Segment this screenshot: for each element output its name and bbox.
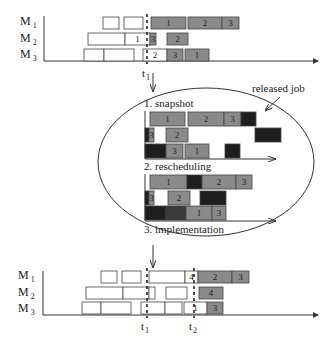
job-bar: 2 (167, 33, 188, 45)
machine-label-2: M2 (20, 31, 37, 47)
job-number: 2 (213, 272, 218, 282)
job-bar (145, 206, 166, 220)
job-bar: 1 (184, 302, 207, 314)
job-bar (104, 49, 134, 61)
job-bar: 1 (185, 49, 209, 61)
step-implementation-label: 3. implementation (144, 223, 225, 235)
machine-labels-bottom: M1 M2 M3 (18, 268, 35, 317)
job-bar (88, 33, 125, 45)
t1-label-bottom: t1 (141, 320, 149, 335)
job-bar-rect (149, 287, 155, 299)
job-bar: 1 (185, 144, 209, 158)
job-bar-rect (145, 144, 166, 158)
job-bar: 3 (150, 33, 156, 45)
job-number: 2 (175, 130, 180, 140)
job-bar: 2 (202, 175, 236, 189)
machine-label-3: M3 (20, 47, 37, 63)
job-number: 3 (151, 34, 156, 44)
job-bar: 1 (186, 206, 212, 220)
job-number: 3 (230, 114, 235, 124)
job-bar: 3 (222, 17, 239, 29)
job-bar-rect (103, 17, 119, 29)
job-bar (141, 302, 165, 314)
job-bar: 2 (188, 112, 224, 126)
job-bar (200, 191, 226, 205)
job-number: 3 (149, 130, 154, 140)
job-bar (255, 128, 281, 142)
snapshot-job-bars: 1233231 (145, 112, 281, 158)
job-bar-rect (123, 287, 149, 299)
job-number: 1 (135, 34, 140, 44)
job-bar (82, 302, 101, 314)
released-job-label: released job (252, 82, 305, 94)
job-number: 2 (153, 50, 158, 60)
job-bar: 2 (188, 17, 222, 29)
machine-label-1: M1 (20, 14, 37, 30)
bottom-job-bars: 423413 (82, 271, 249, 314)
step-snapshot-label: 1. snapshot (144, 97, 194, 109)
job-bar-rect (187, 175, 202, 189)
job-number: 1 (197, 208, 202, 218)
machine-label-2-bottom: M2 (18, 285, 35, 301)
job-bar: 2 (198, 271, 232, 283)
job-bar (101, 302, 131, 314)
job-bar-rect (145, 206, 166, 220)
job-bar (166, 206, 186, 220)
job-number: 3 (173, 50, 178, 60)
job-bar (101, 271, 117, 283)
job-bar-rect (166, 287, 187, 299)
job-bar: 3 (149, 191, 154, 205)
job-bar-rect (166, 206, 186, 220)
job-bar-rect (104, 49, 134, 61)
job-number: 1 (166, 18, 171, 28)
job-bar-rect (255, 128, 281, 142)
job-bar-rect (84, 49, 104, 61)
job-bar: 3 (236, 175, 252, 189)
top-gantt-chart: M1 M2 M3 123132231 t1 (20, 14, 318, 82)
job-bar-rect (241, 112, 256, 126)
job-bar: 3 (166, 144, 183, 158)
job-bar (241, 112, 256, 126)
top-job-bars: 123132231 (84, 17, 239, 61)
job-number: 1 (195, 50, 200, 60)
job-bar-rect (86, 287, 123, 299)
job-bar: 1 (150, 175, 187, 189)
job-number: 3 (149, 193, 154, 203)
job-bar (84, 49, 104, 61)
job-bar-rect (149, 271, 185, 283)
job-bar: 4 (199, 287, 223, 299)
step-rescheduling-label: 2. rescheduling (144, 160, 212, 172)
job-bar (187, 175, 202, 189)
job-number: 3 (217, 208, 222, 218)
job-number: 1 (166, 177, 171, 187)
job-bar-rect (225, 144, 240, 158)
job-bar: 1 (151, 17, 186, 29)
job-number: 2 (203, 18, 208, 28)
job-number: 2 (177, 193, 182, 203)
job-number: 3 (172, 146, 177, 156)
job-bar-rect (200, 191, 226, 205)
job-bar: 3 (232, 271, 249, 283)
job-number: 3 (213, 303, 218, 313)
job-bar-rect (122, 271, 141, 283)
job-bar: 2 (168, 191, 190, 205)
job-bar: 1 (150, 112, 185, 126)
job-bar-rect (141, 302, 165, 314)
job-bar: 2 (166, 128, 188, 142)
job-bar (122, 271, 141, 283)
job-number: 3 (228, 18, 233, 28)
released-job-arrow (265, 97, 280, 111)
job-bar-rect (124, 17, 143, 29)
job-bar-rect (165, 302, 182, 314)
bottom-gantt-chart: M1 M2 M3 423413 t1 t2 (18, 268, 318, 335)
job-bar (124, 17, 143, 29)
job-bar-rect (101, 271, 117, 283)
job-bar (103, 17, 119, 29)
rescheduling-job-bars: 1233213 (145, 175, 252, 220)
machine-label-1-bottom: M1 (18, 268, 35, 284)
job-bar-rect (88, 33, 125, 45)
job-number: 2 (217, 177, 222, 187)
job-bar (145, 144, 166, 158)
job-bar-rect (101, 302, 131, 314)
job-bar: 3 (149, 128, 154, 142)
